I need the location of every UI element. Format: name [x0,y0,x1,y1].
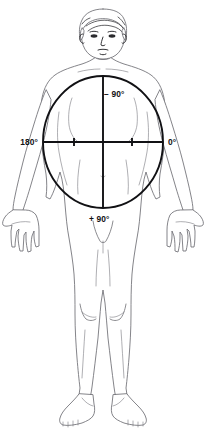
angle-label-left: 180° [20,137,38,147]
angular-reference-overlay [43,76,163,208]
right-hand [167,210,203,252]
right-foot [111,394,146,425]
eye-right [109,34,116,37]
angle-label-bottom: + 90° [89,214,109,224]
left-foot [60,394,95,425]
angle-label-right: 0° [168,137,176,147]
eye-left [91,34,98,37]
anatomy-illustration: − 90° 180° 0° + 90° [0,0,207,436]
left-hand [3,210,39,252]
anatomical-figure-diagram: − 90° 180° 0° + 90° [0,0,207,436]
angle-label-top: − 90° [104,89,124,99]
